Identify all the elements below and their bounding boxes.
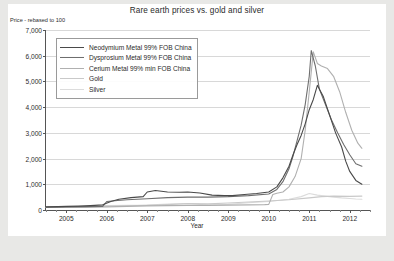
- x-tick-mark-minor: [208, 210, 209, 212]
- legend-color-swatch: [60, 89, 84, 90]
- legend-color-swatch: [60, 78, 84, 79]
- legend-item[interactable]: Gold: [60, 74, 192, 85]
- x-tick-mark: [147, 210, 148, 213]
- legend-item-label: Cerium Metal 99% min FOB China: [89, 65, 190, 72]
- legend-color-swatch: [60, 68, 84, 69]
- x-tick-mark-minor: [259, 210, 260, 212]
- x-tick-mark-minor: [46, 210, 47, 212]
- legend-item-label: Dysprosium Metal 99% FOB China: [89, 54, 191, 61]
- legend-item[interactable]: Dysprosium Metal 99% FOB China: [60, 53, 192, 64]
- x-tick-mark-minor: [238, 210, 239, 212]
- x-tick-mark: [107, 210, 108, 213]
- x-tick-mark: [350, 210, 351, 213]
- x-tick-label: 2012: [342, 215, 357, 222]
- x-tick-mark-minor: [56, 210, 57, 212]
- x-tick-mark-minor: [137, 210, 138, 212]
- y-tick-label: 1,000: [25, 181, 42, 188]
- x-tick-mark-minor: [198, 210, 199, 212]
- x-tick-mark: [228, 210, 229, 213]
- x-tick-mark-minor: [370, 210, 371, 212]
- series-line: [46, 85, 362, 207]
- x-tick-mark: [66, 210, 67, 213]
- x-tick-mark-minor: [87, 210, 88, 212]
- x-tick-mark-minor: [178, 210, 179, 212]
- x-tick-label: 2007: [140, 215, 155, 222]
- x-tick-mark-minor: [117, 210, 118, 212]
- x-tick-mark-minor: [360, 210, 361, 212]
- x-tick-label: 2010: [261, 215, 276, 222]
- chart-title: Rare earth prices vs. gold and silver: [8, 6, 386, 15]
- y-tick-label: 4,000: [25, 104, 42, 111]
- legend-item[interactable]: Cerium Metal 99% min FOB China: [60, 63, 192, 74]
- y-tick-label: 3,000: [25, 129, 42, 136]
- legend-item-label: Neodymium Metal 99% FOB China: [89, 44, 192, 51]
- x-tick-label: 2011: [302, 215, 316, 222]
- y-tick-label: 0: [38, 207, 42, 214]
- legend-item[interactable]: Silver: [60, 84, 192, 95]
- x-tick-mark-minor: [168, 210, 169, 212]
- legend-color-swatch: [60, 47, 84, 48]
- x-tick-label: 2008: [180, 215, 195, 222]
- y-tick-label: 6,000: [25, 52, 42, 59]
- legend-item[interactable]: Neodymium Metal 99% FOB China: [60, 42, 192, 53]
- x-tick-mark-minor: [97, 210, 98, 212]
- x-tick-mark-minor: [218, 210, 219, 212]
- x-tick-label: 2005: [59, 215, 74, 222]
- legend-color-swatch: [60, 57, 84, 58]
- x-tick-mark-minor: [319, 210, 320, 212]
- x-tick-label: 2006: [99, 215, 114, 222]
- chart-legend: Neodymium Metal 99% FOB ChinaDysprosium …: [56, 38, 198, 99]
- x-tick-label: 2009: [221, 215, 236, 222]
- x-tick-mark: [188, 210, 189, 213]
- y-tick-label: 7,000: [25, 27, 42, 34]
- y-tick-label: 5,000: [25, 78, 42, 85]
- x-tick-mark-minor: [249, 210, 250, 212]
- x-tick-mark: [269, 210, 270, 213]
- x-tick-mark: [309, 210, 310, 213]
- chart-figure: Rare earth prices vs. gold and silver Pr…: [8, 4, 386, 236]
- x-tick-mark-minor: [76, 210, 77, 212]
- x-axis-label: Year: [8, 222, 386, 229]
- x-tick-mark-minor: [340, 210, 341, 212]
- x-tick-mark-minor: [330, 210, 331, 212]
- y-tick-label: 2,000: [25, 155, 42, 162]
- x-tick-mark-minor: [289, 210, 290, 212]
- x-tick-mark-minor: [157, 210, 158, 212]
- x-tick-mark-minor: [299, 210, 300, 212]
- x-tick-mark-minor: [279, 210, 280, 212]
- legend-item-label: Gold: [89, 75, 103, 82]
- legend-item-label: Silver: [89, 86, 106, 93]
- x-tick-mark-minor: [127, 210, 128, 212]
- y-axis-label: Price - rebased to 100: [10, 17, 65, 23]
